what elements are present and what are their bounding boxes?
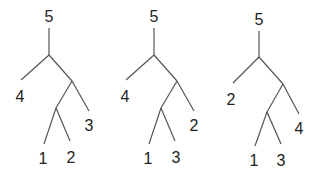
node-label-root: 5: [150, 8, 159, 25]
node-label-root: 5: [255, 11, 264, 28]
tree-2: 5 4 2 1 3: [121, 8, 199, 167]
tree-edges: [233, 31, 299, 146]
node-label-leaf-outer: 3: [85, 117, 94, 134]
trees-diagram: 5 4 3 1 2 5 4 2 1 3 5: [0, 0, 318, 176]
node-label-leaf-inner-left: 1: [250, 152, 259, 169]
tree-edges: [21, 28, 89, 144]
tree-edges: [126, 28, 194, 144]
node-label-leaf-inner-left: 1: [39, 150, 48, 167]
node-label-leaf-left: 4: [121, 88, 130, 105]
node-label-leaf-left: 4: [16, 88, 25, 105]
node-label-leaf-inner-right: 3: [172, 149, 181, 166]
node-label-leaf-inner-right: 2: [67, 149, 76, 166]
node-label-root: 5: [45, 8, 54, 25]
node-label-leaf-inner-left: 1: [144, 150, 153, 167]
node-label-leaf-outer: 2: [190, 117, 199, 134]
tree-3: 5 2 4 1 3: [227, 11, 304, 169]
node-label-leaf-inner-right: 3: [277, 152, 286, 169]
tree-1: 5 4 3 1 2: [16, 8, 94, 167]
node-label-leaf-left: 2: [227, 91, 236, 108]
node-label-leaf-outer: 4: [295, 120, 304, 137]
